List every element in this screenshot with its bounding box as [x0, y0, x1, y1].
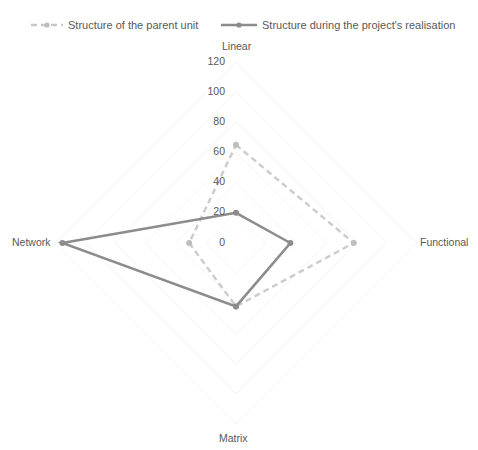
tick-label-40: 40: [195, 175, 225, 187]
tick-label-80: 80: [195, 115, 225, 127]
radar-chart: [0, 0, 478, 450]
radar-grid: [55, 62, 417, 424]
tick-label-0: 0: [195, 236, 225, 248]
tick-label-60: 60: [195, 145, 225, 157]
axis-label-matrix: Matrix: [219, 432, 248, 444]
tick-label-120: 120: [195, 55, 225, 67]
axis-label-network: Network: [12, 236, 51, 248]
tick-label-100: 100: [195, 85, 225, 97]
tick-label-20: 20: [195, 205, 225, 217]
series-project-realisation-polygon: [62, 213, 290, 307]
axis-label-functional: Functional: [420, 236, 468, 248]
axis-label-linear: Linear: [222, 40, 251, 52]
series-parent-unit-polygon: [189, 145, 354, 307]
